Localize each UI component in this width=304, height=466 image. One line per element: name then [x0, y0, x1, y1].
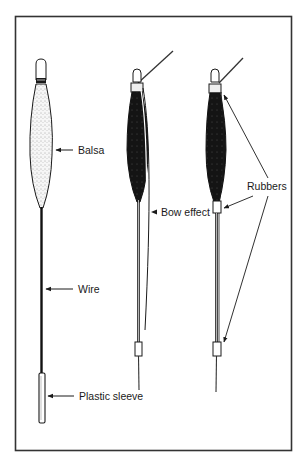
float-3-line [219, 58, 243, 83]
balsa-callout: Balsa [56, 144, 104, 156]
float-2-dark-body [127, 92, 148, 202]
float-1-tip [36, 59, 46, 80]
label-balsa: Balsa [78, 144, 104, 156]
float-3-middle-rubber [213, 201, 221, 213]
float-3-top-rubber [209, 84, 221, 93]
float-2-bow-effect [127, 51, 173, 390]
float-2-line [138, 51, 173, 83]
float-diagram: Balsa Wire Plastic sleeve Bow effect [0, 0, 304, 466]
label-rubbers: Rubbers [247, 180, 287, 192]
float-1-plastic-sleeve [39, 373, 45, 423]
float-2-bottom-rubber [135, 342, 142, 356]
label-plastic-sleeve: Plastic sleeve [79, 390, 143, 402]
label-bow-effect: Bow effect [161, 206, 210, 218]
frame-border [16, 17, 292, 451]
float-3-bottom-wire [216, 356, 217, 392]
float-2-tip [133, 69, 141, 82]
wire-callout: Wire [46, 283, 100, 295]
plastic-sleeve-callout: Plastic sleeve [48, 390, 143, 402]
float-3-bottom-rubber [213, 342, 221, 356]
rubbers-callout: Rubbers [224, 95, 287, 342]
bow-effect-callout: Bow effect [151, 206, 210, 218]
label-wire: Wire [78, 283, 100, 295]
float-1-balsa-wire [30, 59, 53, 423]
float-3-tip [211, 69, 219, 82]
float-1-balsa-body [30, 84, 53, 208]
float-2-bottom-wire [139, 356, 140, 390]
